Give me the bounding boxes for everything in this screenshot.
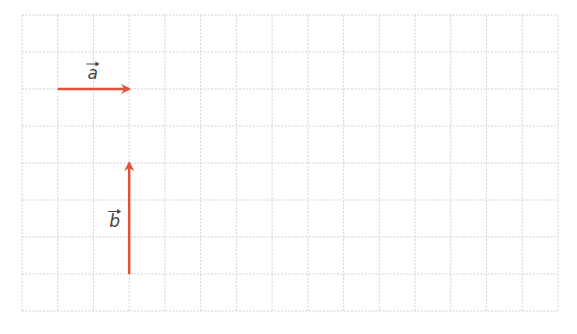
vector-grid-diagram: ab	[0, 0, 577, 334]
vector-label: a	[87, 63, 97, 83]
vector-a: a	[58, 62, 129, 90]
vector-b: b	[108, 163, 129, 274]
vector-label: b	[109, 211, 120, 231]
grid	[22, 15, 558, 311]
